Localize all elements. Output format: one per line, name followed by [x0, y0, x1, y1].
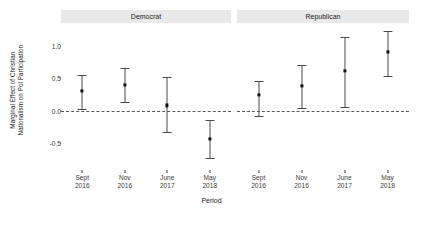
point-estimate — [300, 84, 303, 87]
error-bar-cap — [120, 68, 129, 69]
x-axis-tick-label-month: May — [187, 174, 233, 182]
point-estimate — [386, 50, 389, 53]
panel-republican — [237, 26, 409, 166]
error-bar-cap — [340, 37, 349, 38]
x-axis-tick-mark — [387, 170, 388, 173]
facet-strip-republican: Republican — [237, 10, 409, 23]
x-axis-tick-label: Nov2016 — [102, 174, 148, 191]
x-axis-tick-label: Sept2016 — [59, 174, 105, 191]
x-axis-tick-mark — [167, 170, 168, 173]
x-axis-tick-label-year: 2016 — [279, 182, 325, 190]
x-axis-tick-label-year: 2017 — [322, 182, 368, 190]
error-bar-cap — [78, 75, 87, 76]
y-axis-title-line-1: Marginal Effect of Christian — [9, 45, 17, 136]
x-axis-tick-label-month: Sept — [59, 174, 105, 182]
x-axis-tick-label: May2018 — [187, 174, 233, 191]
y-axis-title: Marginal Effect of Christian Nationalism… — [0, 0, 34, 180]
point-estimate — [208, 137, 211, 140]
x-axis-tick-mark — [82, 170, 83, 173]
point-estimate — [166, 104, 169, 107]
error-bar — [258, 81, 259, 116]
y-axis-tick-label: 0.5 — [35, 75, 61, 82]
x-axis-tick-label: May2018 — [365, 174, 411, 191]
facet-strip-republican-label: Republican — [305, 13, 340, 20]
x-axis-tick-mark — [124, 170, 125, 173]
error-bar-cap — [383, 76, 392, 77]
point-estimate — [123, 83, 126, 86]
y-axis-title-line-2: Nationalism on Pol Participation — [17, 45, 25, 136]
marginal-effects-figure: Marginal Effect of Christian Nationalism… — [0, 0, 423, 229]
facet-strip-democrat: Democrat — [61, 10, 231, 23]
y-axis-tick-label: -0.5 — [35, 140, 61, 147]
error-bar-cap — [254, 116, 263, 117]
x-axis-tick-label-year: 2018 — [365, 182, 411, 190]
x-axis-tick-label: June2017 — [322, 174, 368, 191]
x-axis-title: Period — [0, 197, 423, 204]
zero-reference-line — [237, 111, 409, 112]
x-axis-tick-label-month: Sept — [236, 174, 282, 182]
error-bar — [387, 31, 388, 76]
error-bar-cap — [340, 107, 349, 108]
point-estimate — [343, 69, 346, 72]
x-axis-tick-label-month: June — [322, 174, 368, 182]
x-axis-tick-label: Sept2016 — [236, 174, 282, 191]
x-axis-tick-label-year: 2016 — [236, 182, 282, 190]
x-axis-tick-label-month: June — [144, 174, 190, 182]
y-axis-tick-label: 1.0 — [35, 42, 61, 49]
point-estimate — [81, 90, 84, 93]
x-axis-tick-label-month: May — [365, 174, 411, 182]
x-axis-tick-mark — [301, 170, 302, 173]
x-axis-tick-label-month: Nov — [279, 174, 325, 182]
x-axis-tick-label-year: 2018 — [187, 182, 233, 190]
x-axis-tick-mark — [344, 170, 345, 173]
x-axis-tick-label-year: 2016 — [59, 182, 105, 190]
panel-democrat — [61, 26, 231, 166]
x-axis-tick-mark — [209, 170, 210, 173]
x-axis-tick-label-year: 2017 — [144, 182, 190, 190]
x-axis-tick-label-year: 2016 — [102, 182, 148, 190]
error-bar-cap — [205, 158, 214, 159]
y-axis-tick-label: 0.0 — [35, 107, 61, 114]
zero-reference-line — [61, 111, 231, 112]
x-axis-tick-label: June2017 — [144, 174, 190, 191]
x-axis-tick-label-month: Nov — [102, 174, 148, 182]
error-bar-cap — [205, 120, 214, 121]
error-bar-cap — [297, 65, 306, 66]
error-bar-cap — [163, 77, 172, 78]
error-bar-cap — [383, 31, 392, 32]
y-axis: 1.00.50.0-0.5 — [33, 0, 61, 180]
x-axis-tick-mark — [258, 170, 259, 173]
point-estimate — [257, 93, 260, 96]
error-bar-cap — [163, 132, 172, 133]
facet-strip-democrat-label: Democrat — [131, 13, 161, 20]
x-axis-tick-label: Nov2016 — [279, 174, 325, 191]
error-bar-cap — [254, 81, 263, 82]
error-bar-cap — [78, 109, 87, 110]
error-bar-cap — [297, 108, 306, 109]
error-bar-cap — [120, 102, 129, 103]
